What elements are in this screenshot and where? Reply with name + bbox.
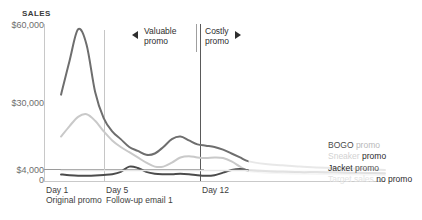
chart-container: SALES $60,000 $30,000 $4,000 0 Valuable … (0, 0, 422, 220)
annotation-valuable-text-line2: promo (144, 36, 168, 46)
legend-series-name: BOGO (328, 140, 354, 150)
x-axis-label-day12-main: Day 12 (202, 185, 229, 195)
legend-item-sneaker[interactable]: Sneaker promo (328, 151, 412, 162)
x-axis-label-day5-sub: Follow-up email 1 (106, 195, 173, 205)
x-axis-label-day5-main: Day 5 (106, 185, 128, 195)
legend-series-name: Target sales (328, 174, 374, 184)
legend-item-bogo[interactable]: BOGO promo (328, 140, 412, 151)
x-axis-label-day1-main: Day 1 (46, 185, 68, 195)
legend-series-qualifier: promo (354, 140, 380, 150)
x-axis-label-day5: Day 5 Follow-up email 1 (106, 185, 173, 205)
legend-series-qualifier: promo (353, 163, 379, 173)
annotation-costly-text-line2: promo (205, 36, 229, 46)
annotation-costly-text-line1: Costly (205, 26, 229, 36)
x-axis-label-day1-sub: Original promo (46, 195, 102, 205)
left-arrow-icon (132, 31, 138, 39)
x-axis-label-day12: Day 12 (202, 185, 229, 195)
chart-legend: BOGO promoSneaker promoJacket promoTarge… (328, 140, 412, 186)
legend-series-name: Sneaker (328, 151, 360, 161)
legend-item-target-sales[interactable]: Target sales no promo (328, 174, 412, 185)
legend-item-jacket[interactable]: Jacket promo (328, 163, 412, 174)
legend-series-qualifier: no promo (374, 174, 412, 184)
x-axis-label-day1: Day 1 Original promo (46, 185, 102, 205)
annotation-costly-promo: Costly promo (205, 27, 229, 46)
annotation-valuable-text-line1: Valuable (144, 26, 176, 36)
legend-series-name: Jacket (328, 163, 353, 173)
annotation-valuable-promo: Valuable promo (144, 27, 176, 46)
annotation-divider (196, 24, 197, 52)
right-arrow-icon (235, 31, 241, 39)
legend-series-qualifier: promo (360, 151, 386, 161)
